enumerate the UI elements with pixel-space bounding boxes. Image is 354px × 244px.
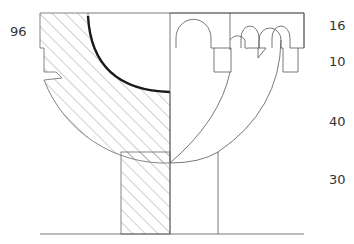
dimension-label-40: 40 bbox=[329, 115, 346, 128]
dimension-label-30: 30 bbox=[329, 173, 346, 186]
arch-band bbox=[170, 13, 304, 72]
hatched-column bbox=[121, 152, 170, 234]
dimension-label-16: 16 bbox=[329, 19, 346, 32]
hatched-section bbox=[40, 13, 170, 163]
outer-bowl-arc bbox=[170, 152, 218, 163]
capital-drawing bbox=[0, 0, 354, 244]
elevation-curve-1 bbox=[170, 72, 230, 163]
arch-large bbox=[176, 19, 231, 72]
dimension-label-10: 10 bbox=[329, 55, 346, 68]
arch-small-2 bbox=[272, 26, 298, 48]
elevation-curve-2 bbox=[218, 40, 281, 152]
dimension-label-96: 96 bbox=[10, 25, 27, 38]
